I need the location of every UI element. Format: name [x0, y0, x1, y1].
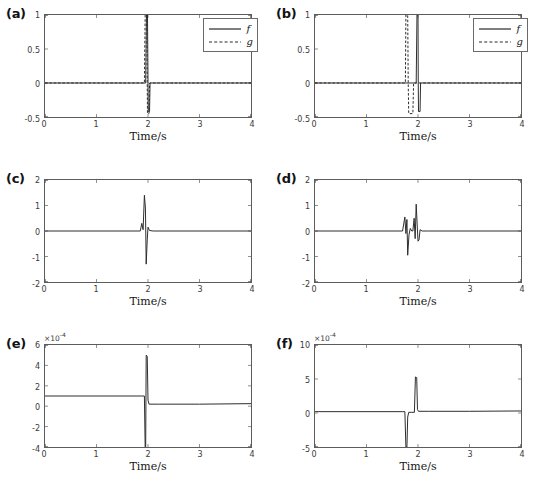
- panel-a-ytick-label: 0.5: [27, 45, 40, 54]
- panel-c-xtick-label: 3: [197, 285, 202, 294]
- panel-e-xlabel: Time/s: [44, 460, 252, 473]
- panel-b-legend-row-g: g: [478, 35, 523, 48]
- panel-c-ytick-label: 1: [35, 202, 40, 211]
- panel-e-exponent: ×10-4: [44, 331, 66, 343]
- panel-f-ytick-label: 10: [300, 341, 310, 350]
- panel-d-plot-area: [314, 179, 522, 283]
- panel-a-xtick-label: 2: [145, 120, 150, 129]
- panel-f-series-f: [315, 377, 521, 447]
- panel-e: (e) ×10-4 6420-2-4 01234 Time/s: [0, 330, 270, 495]
- legend-dashed-line-icon: [208, 39, 242, 45]
- panel-d-series-d: [315, 204, 521, 255]
- panel-e-xtick-label: 0: [41, 450, 46, 459]
- panel-c-plot-area: [44, 179, 252, 283]
- panel-f-xtick-label: 2: [415, 450, 420, 459]
- panel-a-ytick-label: -0.5: [24, 115, 40, 124]
- panel-c-ytick-label: -2: [32, 280, 40, 289]
- panel-a-xlabel: Time/s: [44, 130, 252, 143]
- panel-a-legend-label-f: f: [247, 24, 251, 34]
- panel-f-exponent: ×10-4: [314, 331, 336, 343]
- panel-e-curves: [45, 345, 251, 447]
- panel-f-curves: [315, 345, 521, 447]
- panel-f-ytick-label: 0: [305, 410, 310, 419]
- panel-e-ytick-label: 2: [35, 382, 40, 391]
- panel-d-xtick-label: 4: [519, 285, 524, 294]
- panel-b: (b) 10.50-0.5 01234 Time/s f g: [270, 0, 540, 165]
- panel-a-legend-row-f: f: [208, 22, 253, 35]
- panel-b-xtick-label: 2: [415, 120, 420, 129]
- panel-b-yaxis-ticks: 10.50-0.5: [270, 14, 310, 118]
- panel-c-yaxis-ticks: 210-1-2: [0, 179, 40, 283]
- panel-a-ytick-label: 1: [35, 11, 40, 20]
- panel-a: (a) 10.50-0.5 01234 Time/s f g: [0, 0, 270, 165]
- panel-b-ytick-label: 0.5: [297, 45, 310, 54]
- panel-b-legend-label-f: f: [517, 24, 521, 34]
- figure-six-panel-signal-plots: (a) 10.50-0.5 01234 Time/s f g (b): [0, 0, 540, 495]
- legend-dashed-line-icon: [478, 39, 512, 45]
- legend-solid-line-icon: [208, 26, 242, 32]
- panel-d: (d) 210-1-2 01234 Time/s: [270, 165, 540, 330]
- panel-d-ytick-label: 2: [305, 176, 310, 185]
- panel-f-yaxis-ticks: 1050-5: [270, 344, 310, 448]
- panel-d-xtick-label: 3: [467, 285, 472, 294]
- panel-d-xtick-label: 1: [363, 285, 368, 294]
- panel-d-xtick-label: 2: [415, 285, 420, 294]
- panel-d-ytick-label: 0: [305, 228, 310, 237]
- panel-e-ytick-label: -2: [32, 424, 40, 433]
- panel-f-xtick-label: 1: [363, 450, 368, 459]
- panel-c-ytick-label: 0: [35, 228, 40, 237]
- panel-f-plot-area: [314, 344, 522, 448]
- panel-c-xtick-label: 2: [145, 285, 150, 294]
- panel-e-ytick-label: -4: [32, 445, 40, 454]
- panel-b-legend-row-f: f: [478, 22, 523, 35]
- panel-c-series-c: [45, 195, 251, 264]
- panel-b-ytick-label: 1: [305, 11, 310, 20]
- panel-e-xtick-label: 4: [249, 450, 254, 459]
- panel-e-ytick-label: 6: [35, 341, 40, 350]
- panel-e-ytick-label: 4: [35, 361, 40, 370]
- panel-c-xtick-label: 0: [41, 285, 46, 294]
- panel-d-xlabel: Time/s: [314, 295, 522, 308]
- panel-b-xtick-label: 3: [467, 120, 472, 129]
- panel-c-xtick-label: 1: [93, 285, 98, 294]
- panel-f-xtick-label: 4: [519, 450, 524, 459]
- panel-c-xtick-label: 4: [249, 285, 254, 294]
- panel-e-series-e: [45, 355, 251, 447]
- panel-c-curves: [45, 180, 251, 282]
- panel-d-ytick-label: -2: [302, 280, 310, 289]
- panel-d-ytick-label: -1: [302, 254, 310, 263]
- panel-f: (f) ×10-4 1050-5 01234 Time/s: [270, 330, 540, 495]
- panel-b-legend: f g: [473, 18, 528, 52]
- panel-a-legend-label-g: g: [247, 37, 253, 47]
- panel-b-xtick-label: 0: [311, 120, 316, 129]
- panel-b-xtick-label: 4: [519, 120, 524, 129]
- panel-b-ytick-label: -0.5: [294, 115, 310, 124]
- panel-e-plot-area: [44, 344, 252, 448]
- panel-a-xtick-label: 1: [93, 120, 98, 129]
- panel-a-ytick-label: 0: [35, 80, 40, 89]
- panel-e-xtick-label: 1: [93, 450, 98, 459]
- panel-e-xtick-label: 2: [145, 450, 150, 459]
- panel-b-xtick-label: 1: [363, 120, 368, 129]
- panel-b-xlabel: Time/s: [314, 130, 522, 143]
- panel-f-ytick-label: -5: [302, 445, 310, 454]
- panel-f-ytick-label: 5: [305, 375, 310, 384]
- panel-a-legend: f g: [203, 18, 258, 52]
- panel-a-xtick-label: 4: [249, 120, 254, 129]
- panel-f-xtick-label: 3: [467, 450, 472, 459]
- panel-c: (c) 210-1-2 01234 Time/s: [0, 165, 270, 330]
- panel-e-ytick-label: 0: [35, 403, 40, 412]
- panel-b-ytick-label: 0: [305, 80, 310, 89]
- panel-a-xtick-label: 0: [41, 120, 46, 129]
- panel-d-xtick-label: 0: [311, 285, 316, 294]
- panel-a-yaxis-ticks: 10.50-0.5: [0, 14, 40, 118]
- legend-solid-line-icon: [478, 26, 512, 32]
- panel-f-xtick-label: 0: [311, 450, 316, 459]
- panel-c-xlabel: Time/s: [44, 295, 252, 308]
- panel-d-ytick-label: 1: [305, 202, 310, 211]
- panel-c-ytick-label: -1: [32, 254, 40, 263]
- panel-a-legend-row-g: g: [208, 35, 253, 48]
- panel-e-xtick-label: 3: [197, 450, 202, 459]
- panel-d-yaxis-ticks: 210-1-2: [270, 179, 310, 283]
- panel-d-curves: [315, 180, 521, 282]
